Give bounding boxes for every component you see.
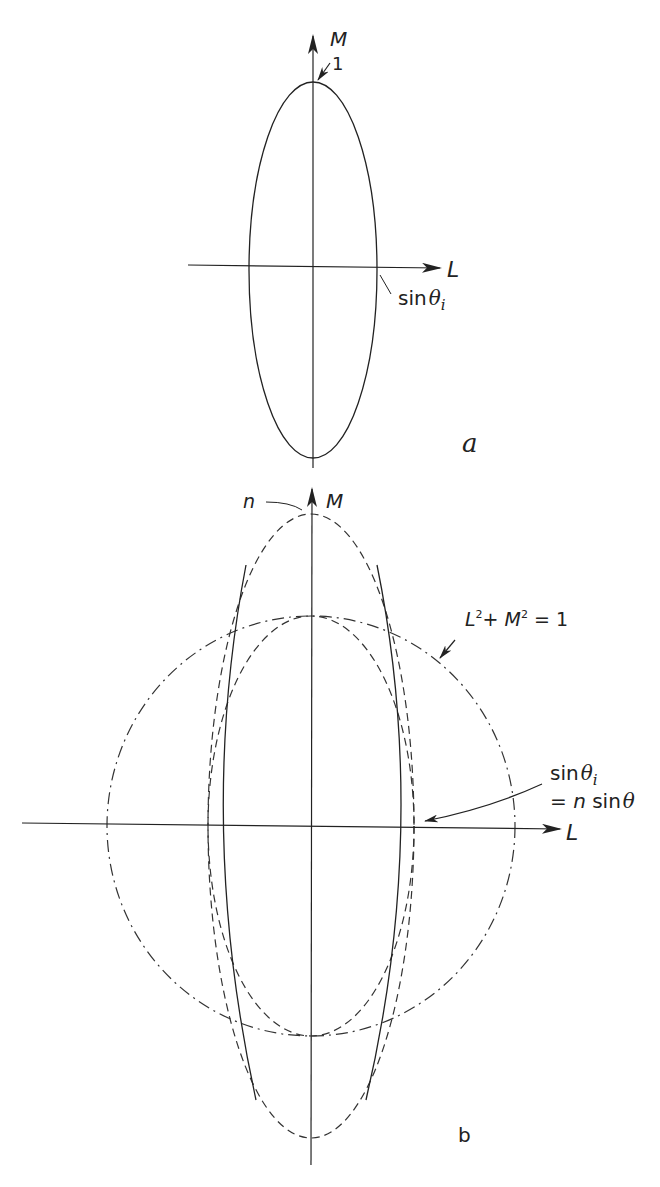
intercept-pointer-a bbox=[380, 275, 391, 294]
l-axis-label-a: L bbox=[447, 257, 459, 282]
circle-equation-label: L2+ M2 = 1 bbox=[465, 608, 568, 630]
intercept-label-b-line1: sinθi bbox=[550, 761, 598, 789]
figure-a: M 1 L sinθi a bbox=[188, 27, 478, 468]
top-value-label-a: 1 bbox=[332, 53, 343, 74]
intercept-label-b-line2: = n sinθ bbox=[550, 789, 635, 813]
m-axis-b bbox=[311, 489, 312, 1165]
panel-label-b: b bbox=[458, 1123, 471, 1147]
m-axis-label-b: M bbox=[326, 489, 343, 513]
intercept-label-a: sinθi bbox=[398, 286, 446, 314]
top-value-pointer-a bbox=[318, 63, 330, 80]
circle-equation-pointer bbox=[440, 640, 455, 658]
n-label: n bbox=[243, 490, 255, 512]
solid-lens-curve-left bbox=[223, 565, 256, 1100]
solid-lens-curve-right bbox=[366, 565, 401, 1100]
l-axis-b bbox=[22, 823, 560, 829]
n-label-leader bbox=[266, 502, 302, 510]
l-axis-a bbox=[188, 265, 440, 268]
intercept-pointer-b bbox=[425, 784, 542, 821]
panel-label-a: a bbox=[462, 428, 478, 458]
figure-canvas: M 1 L sinθi a M n L bbox=[0, 0, 660, 1187]
figure-b: M n L L2+ M2 = 1 sinθi = n sinθ b bbox=[22, 489, 635, 1165]
l-axis-label-b: L bbox=[566, 820, 578, 845]
m-axis-label-a: M bbox=[330, 27, 347, 51]
